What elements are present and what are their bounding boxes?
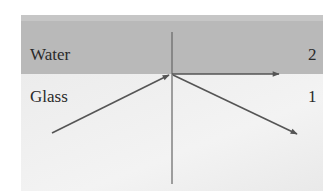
medium-index-1-label: 1 [308, 88, 317, 105]
medium-index-2-label: 2 [308, 46, 317, 63]
glass-label: Glass [30, 88, 68, 105]
water-band-top-fade [21, 15, 323, 21]
water-label: Water [30, 46, 70, 63]
